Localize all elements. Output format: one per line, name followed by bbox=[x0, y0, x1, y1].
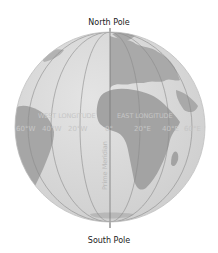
tick-0: 0° bbox=[105, 125, 113, 133]
globe-diagram: WEST LONGITUDE EAST LONGITUDE 60°W 40°W … bbox=[0, 0, 218, 253]
tick-40w: 40°W bbox=[42, 125, 61, 133]
east-longitude-label: EAST LONGITUDE bbox=[117, 112, 172, 120]
tick-60e: 60°E bbox=[184, 125, 201, 133]
tick-20e: 20°E bbox=[134, 125, 151, 133]
tick-40e: 40°E bbox=[162, 125, 179, 133]
south-pole-label: South Pole bbox=[0, 236, 218, 245]
west-longitude-label: WEST LONGITUDE bbox=[38, 112, 95, 120]
prime-meridian-label: Prime Meridian bbox=[101, 141, 109, 190]
tick-60w: 60°W bbox=[16, 125, 35, 133]
tick-20w: 20°W bbox=[68, 125, 87, 133]
